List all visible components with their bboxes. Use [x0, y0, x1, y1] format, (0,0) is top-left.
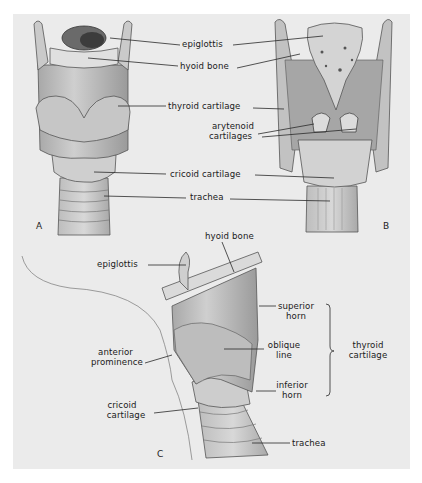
label-b-arytenoid-1: arytenoid — [212, 121, 254, 131]
panel-letter-a: A — [36, 221, 42, 231]
label-c-hyoid-bone: hyoid bone — [205, 231, 254, 241]
cricoid-line1: cricoid — [98, 400, 154, 410]
thyroid-cartilage-line1: thyroid — [343, 340, 393, 350]
superior-horn-line1: superior — [276, 301, 316, 311]
label-c-superior-horn: superior horn — [276, 301, 316, 321]
anterior-prominence-line1: anterior — [79, 347, 143, 357]
label-a-cricoid-cartilage: cricoid cartilage — [170, 169, 241, 179]
label-a-epiglottis: epiglottis — [182, 39, 223, 49]
label-c-inferior-horn: inferior horn — [272, 380, 312, 400]
oblique-line-line2: line — [264, 350, 304, 360]
panel-letter-c: C — [157, 449, 163, 459]
label-a-trachea: trachea — [190, 192, 224, 202]
oblique-line-line1: oblique — [264, 340, 304, 350]
label-c-cricoid-cartilage: cricoid cartilage — [98, 400, 154, 420]
panel-a-drawing — [34, 21, 132, 235]
label-a-hyoid-bone: hyoid bone — [180, 61, 229, 71]
label-c-anterior-prominence: anterior prominence — [79, 347, 143, 367]
thyroid-cartilage-line2: cartilage — [343, 350, 393, 360]
label-b-arytenoid-2: cartilages — [209, 131, 252, 141]
larynx-illustration — [0, 0, 422, 483]
label-a-thyroid-cartilage: thyroid cartilage — [168, 101, 240, 111]
anterior-prominence-line2: prominence — [79, 357, 143, 367]
cricoid-line2: cartilage — [98, 410, 154, 420]
inferior-horn-line2: horn — [272, 390, 312, 400]
panel-letter-b: B — [383, 221, 389, 231]
label-c-epiglottis: epiglottis — [97, 259, 138, 269]
label-c-oblique-line: oblique line — [264, 340, 304, 360]
label-c-thyroid-cartilage: thyroid cartilage — [343, 340, 393, 360]
label-c-trachea: trachea — [292, 438, 326, 448]
superior-horn-line2: horn — [276, 311, 316, 321]
panel-c-drawing — [22, 252, 268, 460]
inferior-horn-line1: inferior — [272, 380, 312, 390]
